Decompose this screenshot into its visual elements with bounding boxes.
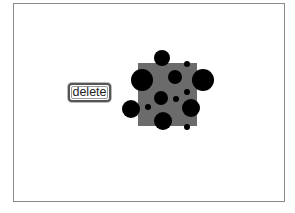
black-circle-shape[interactable] (154, 50, 170, 66)
black-circle-shape[interactable] (184, 124, 190, 130)
black-circle-shape[interactable] (154, 91, 168, 105)
black-circle-shape[interactable] (184, 61, 190, 67)
black-circle-shape[interactable] (192, 69, 214, 91)
black-circle-shape[interactable] (168, 70, 182, 84)
delete-button[interactable]: delete (68, 83, 111, 102)
black-circle-shape[interactable] (131, 69, 153, 91)
black-circle-shape[interactable] (122, 100, 140, 118)
black-circle-shape[interactable] (154, 112, 172, 130)
black-circle-shape[interactable] (182, 99, 200, 117)
black-circle-shape[interactable] (173, 96, 179, 102)
black-circle-shape[interactable] (145, 104, 151, 110)
black-circle-shape[interactable] (184, 89, 190, 95)
